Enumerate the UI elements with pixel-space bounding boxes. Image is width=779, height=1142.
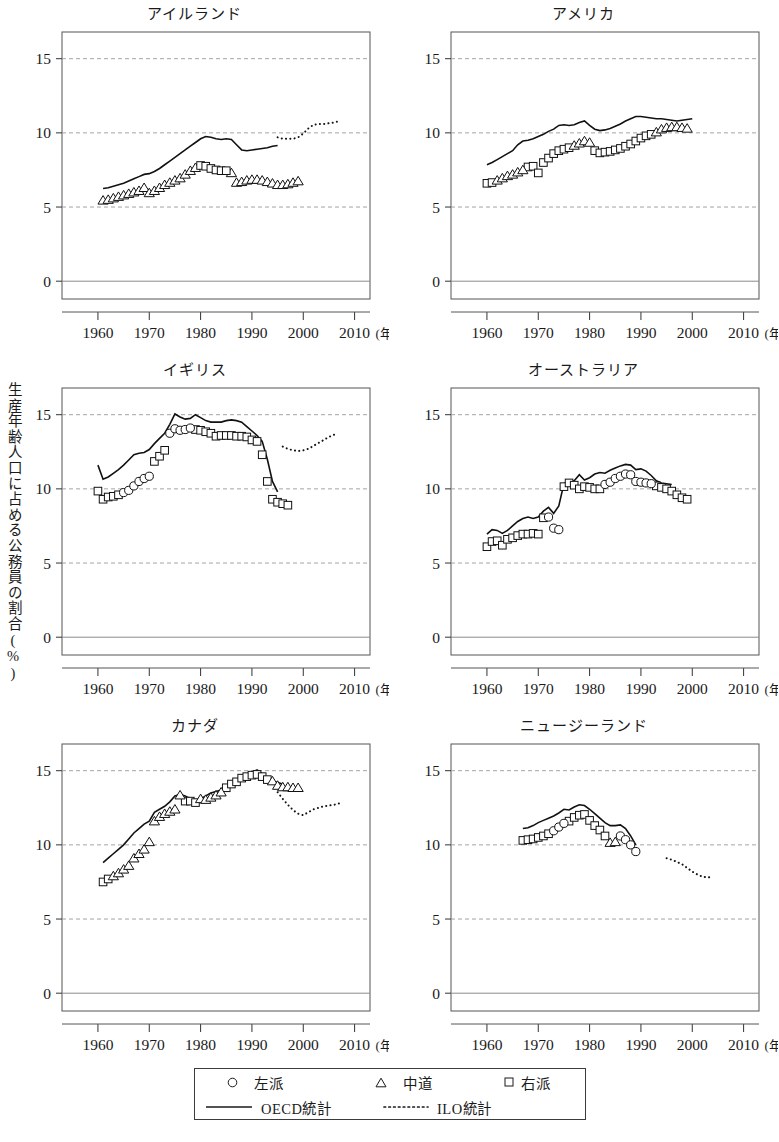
y-tick-label: 10 bbox=[425, 836, 441, 853]
legend-item-ilo: ILO統計 bbox=[383, 1094, 492, 1120]
panel-america: 051015196019701980199020002010(年)アメリカ bbox=[389, 0, 778, 352]
x-tick-label: 2010 bbox=[339, 680, 370, 697]
x-tick-label: 1970 bbox=[134, 324, 165, 341]
plot-area: 051015196019701980199020002010(年) bbox=[0, 712, 389, 1064]
plot-frame bbox=[62, 388, 370, 655]
marker-right bbox=[534, 530, 542, 538]
panel-title: アイルランド bbox=[0, 2, 389, 23]
panel-title: アメリカ bbox=[389, 2, 778, 23]
y-tick-label: 10 bbox=[425, 480, 441, 497]
marker-left bbox=[632, 847, 640, 855]
circle-marker-icon bbox=[221, 1077, 243, 1088]
x-tick-label: 1960 bbox=[471, 680, 502, 697]
marker-left bbox=[555, 526, 563, 534]
y-tick-label: 15 bbox=[36, 406, 52, 423]
x-tick-label: 1980 bbox=[574, 1036, 605, 1053]
dotted-line-icon bbox=[383, 1102, 429, 1112]
x-tick-label: 2010 bbox=[728, 680, 759, 697]
solid-line-icon bbox=[205, 1102, 253, 1112]
x-tick-label: 2010 bbox=[728, 324, 759, 341]
panel-title: オーストラリア bbox=[389, 358, 778, 379]
plot-frame bbox=[451, 388, 759, 655]
plot-area: 051015196019701980199020002010(年) bbox=[0, 356, 389, 708]
ilo-line bbox=[283, 435, 334, 451]
y-tick-label: 10 bbox=[425, 124, 441, 141]
x-tick-label: 1980 bbox=[185, 1036, 216, 1053]
marker-right bbox=[161, 447, 169, 455]
y-tick-label: 5 bbox=[432, 199, 440, 216]
x-tick-label: 1990 bbox=[236, 1036, 267, 1053]
panel-title: イギリス bbox=[0, 358, 389, 379]
x-tick-label: 1980 bbox=[185, 324, 216, 341]
panel-australia: 051015196019701980199020002010(年)オーストラリア bbox=[389, 356, 778, 708]
square-marker-icon bbox=[502, 1077, 516, 1087]
oecd-line bbox=[103, 770, 283, 863]
legend-label-right: 右派 bbox=[521, 1072, 550, 1093]
plot-frame bbox=[62, 32, 370, 299]
x-tick-label: 1990 bbox=[625, 1036, 656, 1053]
y-tick-label: 15 bbox=[425, 762, 441, 779]
y-tick-label: 15 bbox=[36, 762, 52, 779]
y-tick-label: 0 bbox=[432, 629, 440, 646]
plot-frame bbox=[451, 32, 759, 299]
x-tick-label: 2000 bbox=[288, 324, 319, 341]
x-tick-label: 1970 bbox=[523, 1036, 554, 1053]
x-axis-unit: (年) bbox=[376, 326, 389, 341]
x-tick-label: 1960 bbox=[82, 324, 113, 341]
y-tick-label: 10 bbox=[36, 836, 52, 853]
plot-area: 051015196019701980199020002010(年) bbox=[0, 0, 389, 352]
panel-new-zealand: 051015196019701980199020002010(年)ニュージーラン… bbox=[389, 712, 778, 1064]
legend-label-center: 中道 bbox=[403, 1072, 432, 1093]
x-tick-label: 1990 bbox=[236, 324, 267, 341]
ilo-line bbox=[278, 792, 340, 815]
marker-right bbox=[253, 438, 261, 446]
x-tick-label: 1960 bbox=[471, 324, 502, 341]
marker-left bbox=[647, 480, 655, 488]
x-tick-label: 2010 bbox=[339, 324, 370, 341]
y-tick-label: 5 bbox=[43, 555, 51, 572]
x-tick-label: 2000 bbox=[677, 1036, 708, 1053]
legend-item-left: 左派 bbox=[221, 1069, 283, 1095]
y-tick-label: 5 bbox=[43, 911, 51, 928]
x-tick-label: 1970 bbox=[523, 324, 554, 341]
x-tick-label: 1970 bbox=[523, 680, 554, 697]
x-tick-label: 2000 bbox=[288, 1036, 319, 1053]
x-tick-label: 1990 bbox=[625, 324, 656, 341]
plot-area: 051015196019701980199020002010(年) bbox=[389, 712, 778, 1064]
x-tick-label: 1960 bbox=[82, 680, 113, 697]
y-tick-label: 5 bbox=[432, 911, 440, 928]
y-tick-label: 5 bbox=[432, 555, 440, 572]
x-tick-label: 1980 bbox=[185, 680, 216, 697]
marker-right bbox=[601, 832, 609, 840]
x-tick-label: 2000 bbox=[677, 680, 708, 697]
marker-right bbox=[264, 478, 272, 486]
legend-item-center: 中道 bbox=[370, 1069, 432, 1095]
legend-label-left: 左派 bbox=[254, 1072, 283, 1093]
x-tick-label: 2010 bbox=[728, 1036, 759, 1053]
marker-right bbox=[284, 501, 292, 509]
x-axis-unit: (年) bbox=[765, 682, 778, 697]
panel-canada: 051015196019701980199020002010(年)カナダ bbox=[0, 712, 389, 1064]
x-tick-label: 2000 bbox=[288, 680, 319, 697]
marker-right bbox=[94, 487, 102, 495]
x-tick-label: 1980 bbox=[574, 680, 605, 697]
y-tick-label: 15 bbox=[425, 50, 441, 67]
y-tick-label: 15 bbox=[425, 406, 441, 423]
panel-title: ニュージーランド bbox=[389, 714, 778, 735]
marker-left bbox=[560, 819, 568, 827]
y-tick-label: 15 bbox=[36, 50, 52, 67]
legend-box: 左派 中道 右派 OECD統計 bbox=[194, 1068, 586, 1120]
marker-right bbox=[534, 169, 542, 177]
legend-row-parties: 左派 中道 右派 bbox=[195, 1069, 587, 1095]
panel-title: カナダ bbox=[0, 714, 389, 735]
x-axis-unit: (年) bbox=[765, 1038, 778, 1053]
ilo-line bbox=[278, 121, 340, 139]
marker-right bbox=[683, 495, 691, 503]
x-axis-unit: (年) bbox=[376, 1038, 389, 1053]
marker-left bbox=[186, 424, 194, 432]
plot-area: 051015196019701980199020002010(年) bbox=[389, 0, 778, 352]
panel-uk: 051015196019701980199020002010(年)イギリス bbox=[0, 356, 389, 708]
x-axis-unit: (年) bbox=[765, 326, 778, 341]
y-tick-label: 0 bbox=[43, 629, 51, 646]
x-tick-label: 1990 bbox=[625, 680, 656, 697]
